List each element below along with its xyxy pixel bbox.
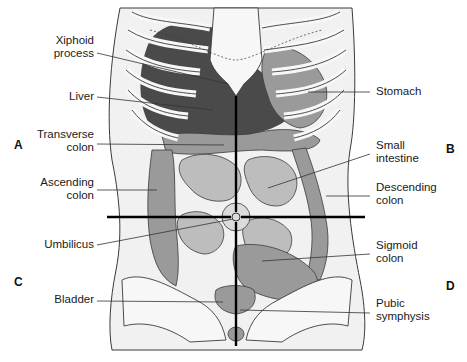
label-bladder: Bladder bbox=[46, 293, 94, 306]
label-umbilicus: Umbilicus bbox=[32, 238, 94, 251]
label-pubic-symphysis: Pubic symphysis bbox=[376, 297, 430, 323]
label-sigmoid-colon: Sigmoid colon bbox=[376, 239, 418, 265]
label-stomach: Stomach bbox=[376, 85, 421, 98]
abdominal-quadrant-diagram: Xiphoid process Liver Transverse colon A… bbox=[0, 0, 467, 362]
quadrant-letter-c: C bbox=[14, 275, 23, 289]
label-liver: Liver bbox=[52, 90, 94, 103]
label-descending-colon: Descending colon bbox=[376, 181, 437, 207]
label-small-intestine: Small intestine bbox=[376, 139, 419, 165]
quadrant-letter-d: D bbox=[446, 279, 455, 293]
quadrant-letter-b: B bbox=[446, 142, 455, 156]
quadrant-letter-a: A bbox=[14, 138, 23, 152]
label-xiphoid-process: Xiphoid process bbox=[40, 34, 94, 60]
label-transverse-colon: Transverse colon bbox=[30, 128, 94, 154]
label-ascending-colon: Ascending colon bbox=[34, 176, 94, 202]
